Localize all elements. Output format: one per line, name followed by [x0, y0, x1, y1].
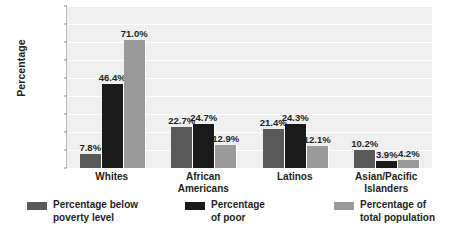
bar: 46.4% — [102, 84, 124, 168]
bar: 24.3% — [285, 124, 307, 168]
bar-value-label: 12.9% — [212, 133, 239, 144]
y-tick-mark — [64, 60, 67, 61]
bar: 24.7% — [193, 124, 215, 168]
bar-value-label: 3.9% — [376, 149, 398, 160]
legend-item[interactable]: Percentage below poverty level — [27, 199, 138, 224]
plot-area: 7.8%46.4%71.0%22.7%24.7%12.9%21.4%24.3%1… — [66, 6, 432, 168]
bar-value-label: 24.7% — [190, 112, 217, 123]
bar-value-label: 12.1% — [304, 134, 331, 145]
bar: 7.8% — [80, 154, 102, 168]
legend-label: Percentage of total population — [360, 199, 435, 224]
y-tick-mark — [64, 6, 67, 7]
bar: 22.7% — [171, 127, 193, 168]
bar: 3.9% — [376, 161, 398, 168]
legend-swatch-icon — [185, 202, 205, 210]
y-axis-title: Percentage — [15, 0, 27, 138]
y-tick-mark — [64, 114, 67, 115]
bar-group: 10.2%3.9%4.2% — [342, 6, 434, 168]
y-tick-mark — [64, 132, 67, 133]
legend-item[interactable]: Percentage of total population — [334, 199, 435, 224]
bar: 12.9% — [215, 145, 237, 168]
legend-label: Percentage of poor — [211, 199, 265, 224]
bar: 12.1% — [307, 146, 329, 168]
y-tick-mark — [64, 42, 67, 43]
bar-group: 22.7%24.7%12.9% — [159, 6, 251, 168]
x-category-label: Whites — [66, 171, 158, 183]
y-tick-mark — [64, 78, 67, 79]
legend-item[interactable]: Percentage of poor — [185, 199, 265, 224]
y-tick-mark — [64, 168, 67, 169]
x-category-label: Asian/Pacific Islanders — [341, 171, 433, 195]
bar-value-label: 46.4% — [99, 72, 126, 83]
bar-chart: Percentage 7.8%46.4%71.0%22.7%24.7%12.9%… — [0, 0, 451, 234]
y-tick-mark — [64, 96, 67, 97]
bar-value-label: 71.0% — [121, 28, 148, 39]
gridline — [67, 168, 432, 169]
x-category-label: African Americans — [158, 171, 250, 195]
bar-value-label: 4.2% — [398, 148, 420, 159]
y-tick-mark — [64, 24, 67, 25]
bar-group: 21.4%24.3%12.1% — [250, 6, 342, 168]
bar: 71.0% — [124, 40, 146, 168]
bar-value-label: 24.3% — [282, 112, 309, 123]
bar: 10.2% — [354, 150, 376, 168]
bar-value-label: 7.8% — [79, 142, 101, 153]
bar: 21.4% — [263, 129, 285, 168]
legend-swatch-icon — [334, 202, 354, 210]
x-category-label: Latinos — [249, 171, 341, 183]
bar-group: 7.8%46.4%71.0% — [67, 6, 159, 168]
y-tick-mark — [64, 150, 67, 151]
legend-label: Percentage below poverty level — [53, 199, 138, 224]
bar: 4.2% — [398, 160, 420, 168]
bar-value-label: 10.2% — [351, 138, 378, 149]
legend-swatch-icon — [27, 202, 47, 210]
chart-legend: Percentage below poverty levelPercentage… — [27, 199, 447, 231]
